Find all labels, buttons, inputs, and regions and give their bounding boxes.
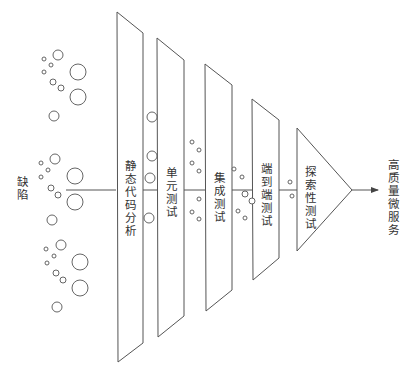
stage-label-e2e-test: 端到端测试 <box>259 163 271 228</box>
defect-circle-icon <box>39 161 43 165</box>
defect-circle-icon <box>42 70 46 74</box>
defect-circle-icon <box>190 140 194 144</box>
defect-circle-icon <box>145 173 155 183</box>
defect-circle-icon <box>288 180 292 184</box>
defect-circle-icon <box>45 261 49 265</box>
defect-filter-funnel-diagram: 缺陷 静态代码分析 单元测试 集成测试 端到端测试 探索性测试 高质量微服务 <box>0 0 410 380</box>
defect-circle-icon <box>144 213 154 223</box>
input-label-defects: 缺陷 <box>15 176 27 202</box>
defect-circle-icon <box>50 154 60 164</box>
defect-circle-icon <box>39 175 43 179</box>
defect-circle-icon <box>46 168 50 172</box>
defect-circle-icon <box>197 197 201 201</box>
defect-circle-icon <box>44 247 48 251</box>
defect-circle-icon <box>249 198 255 204</box>
defect-circle-icon <box>47 215 57 225</box>
defect-circle-icon <box>55 192 61 198</box>
defect-circle-icon <box>147 151 157 161</box>
defect-circle-icon <box>290 194 294 198</box>
defect-circle-icon <box>42 57 46 61</box>
defect-circle-icon <box>52 254 56 258</box>
defect-circle-icon <box>53 50 63 60</box>
defect-circle-icon <box>49 111 59 121</box>
defect-circle-icon <box>56 240 66 250</box>
defect-circle-icon <box>53 270 59 276</box>
stage-label-exploratory-test: 探索性测试 <box>303 166 315 231</box>
defect-circle-icon <box>190 210 194 214</box>
defect-circle-icon <box>60 277 66 283</box>
defect-circle-icon <box>240 175 244 179</box>
defect-circle-icon <box>58 85 64 91</box>
stage-label-unit-test: 单元测试 <box>164 167 176 219</box>
defect-circle-icon <box>72 254 88 270</box>
diagram-canvas <box>0 0 410 380</box>
defect-circle-icon <box>70 89 86 105</box>
defect-circle-icon <box>243 216 247 220</box>
stage-label-integration-test: 集成测试 <box>212 172 224 224</box>
defect-circle-icon <box>242 191 248 197</box>
stage-label-static-analysis: 静态代码分析 <box>123 160 135 238</box>
defect-circle-icon <box>236 209 240 213</box>
defect-circle-icon <box>190 161 194 165</box>
defect-circle-icon <box>197 148 201 152</box>
defect-circle-icon <box>72 280 88 296</box>
defect-circle-icon <box>147 112 157 122</box>
defect-circle-icon <box>67 194 83 210</box>
defect-circle-icon <box>70 64 86 80</box>
defect-circle-icon <box>232 167 236 171</box>
defect-circle-icon <box>67 168 83 184</box>
defect-circle-icon <box>52 302 62 312</box>
output-label-quality-microservices: 高质量微服务 <box>386 159 398 237</box>
defect-circle-icon <box>50 79 56 85</box>
defect-circle-icon <box>48 185 54 191</box>
defect-circle-icon <box>49 63 53 67</box>
defect-circle-icon <box>197 217 201 221</box>
defect-circle-icon <box>197 169 201 173</box>
